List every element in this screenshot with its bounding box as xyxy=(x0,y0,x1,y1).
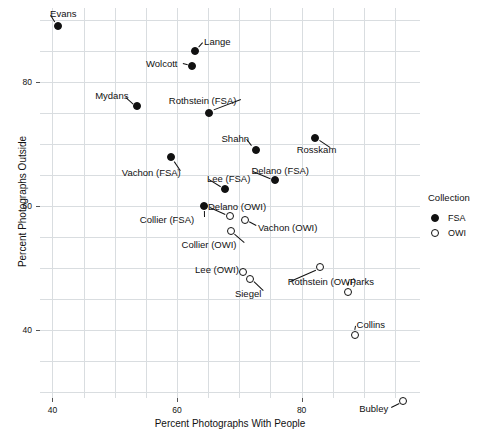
gridline-horizontal xyxy=(40,51,420,52)
data-point[interactable] xyxy=(344,288,352,296)
y-tick-label: 60 xyxy=(8,201,32,211)
legend-label-owi: OWI xyxy=(448,228,466,238)
data-point[interactable] xyxy=(54,22,62,30)
y-tick-label: 40 xyxy=(8,325,32,335)
data-point[interactable] xyxy=(133,102,141,110)
data-point[interactable] xyxy=(316,263,324,271)
gridline-vertical xyxy=(302,8,303,398)
data-point-label: Collier (FSA) xyxy=(140,214,194,225)
data-point[interactable] xyxy=(311,134,319,142)
label-leader-line xyxy=(198,42,203,47)
data-point[interactable] xyxy=(399,397,407,405)
data-point[interactable] xyxy=(200,202,208,210)
data-point-label: Parks xyxy=(350,276,374,287)
data-point-label: Evans xyxy=(50,8,76,19)
gridline-vertical xyxy=(52,8,53,398)
data-point-label: Wolcott xyxy=(146,58,178,69)
gridline-horizontal xyxy=(40,20,420,21)
data-point-label: Collier (OWI) xyxy=(182,239,237,250)
label-leader-line xyxy=(182,63,187,65)
gridline-horizontal xyxy=(40,392,420,393)
data-point-label: Shahn xyxy=(222,133,249,144)
gridline-vertical xyxy=(270,8,271,398)
x-tick-mark xyxy=(52,398,53,402)
data-point[interactable] xyxy=(167,153,175,161)
x-tick-mark xyxy=(302,398,303,402)
y-tick-label: 80 xyxy=(8,77,32,87)
label-leader-line xyxy=(391,403,400,408)
gridline-horizontal xyxy=(40,82,420,83)
data-point-label: Mydans xyxy=(95,90,128,101)
data-point[interactable] xyxy=(205,109,213,117)
data-point-label: Lange xyxy=(204,36,230,47)
y-tick-mark xyxy=(36,82,40,83)
hollow-circle-icon xyxy=(431,229,439,237)
data-point[interactable] xyxy=(241,216,249,224)
gridline-vertical xyxy=(333,8,334,398)
data-point[interactable] xyxy=(188,62,196,70)
scatter-plot-figure: EvansLangeWolcottMydansRothstein (FSA)Sh… xyxy=(0,0,489,440)
data-point[interactable] xyxy=(191,47,199,55)
gridline-vertical xyxy=(84,8,85,398)
data-point-label: Collins xyxy=(357,319,386,330)
gridline-horizontal xyxy=(40,113,420,114)
legend-item-fsa[interactable]: FSA xyxy=(428,210,486,225)
legend-label-fsa: FSA xyxy=(448,213,466,223)
data-point-label: Siegel xyxy=(235,288,261,299)
label-leader-line xyxy=(249,222,256,227)
legend-title: Collection xyxy=(428,192,486,203)
data-point-label: Rosskam xyxy=(297,144,337,155)
legend-item-owi[interactable]: OWI xyxy=(428,225,486,240)
gridline-horizontal xyxy=(40,361,420,362)
data-point[interactable] xyxy=(271,176,279,184)
plot-area: EvansLangeWolcottMydansRothstein (FSA)Sh… xyxy=(40,8,420,398)
data-point-label: Vachon (OWI) xyxy=(258,222,317,233)
x-tick-label: 80 xyxy=(297,405,306,415)
data-point[interactable] xyxy=(252,146,260,154)
data-point[interactable] xyxy=(351,331,359,339)
data-point-label: Bubley xyxy=(359,403,388,414)
data-point-label: Lee (OWI) xyxy=(195,264,239,275)
x-axis-label: Percent Photographs With People xyxy=(40,418,420,429)
x-tick-label: 40 xyxy=(48,405,57,415)
data-point-label: Vachon (FSA) xyxy=(122,167,181,178)
data-point[interactable] xyxy=(226,212,234,220)
legend: Collection FSA OWI xyxy=(428,192,486,240)
y-tick-mark xyxy=(36,206,40,207)
y-tick-mark xyxy=(36,330,40,331)
x-tick-mark xyxy=(177,398,178,402)
gridline-horizontal xyxy=(40,144,420,145)
gridline-vertical xyxy=(115,8,116,398)
data-point[interactable] xyxy=(221,185,229,193)
data-point[interactable] xyxy=(239,268,247,276)
gridline-vertical xyxy=(395,8,396,398)
label-leader-line xyxy=(204,211,205,217)
gridline-vertical xyxy=(364,8,365,398)
filled-circle-icon xyxy=(431,214,439,222)
gridline-horizontal xyxy=(40,299,420,300)
x-tick-label: 60 xyxy=(172,405,181,415)
